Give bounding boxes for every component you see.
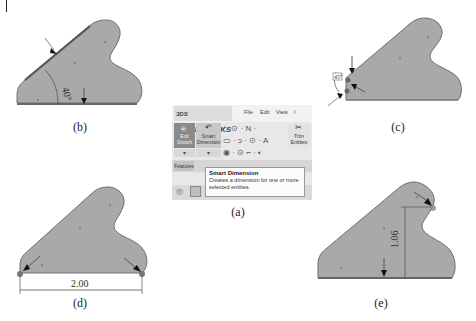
trim-icon: ✂ [295,124,302,132]
tooltip-title: Smart Dimension [209,170,301,177]
smart-dimension-tooltip: Smart Dimension Creates a dimension for … [205,167,305,197]
part-sketch-e: 1.06 [316,170,476,321]
exit-sketch-dropdown[interactable]: ▾ [174,149,195,157]
panel-d: 2.00 (d) [0,170,160,321]
property-manager-icon[interactable] [190,186,201,197]
smart-dimension-icon: ↶ [205,124,212,132]
linear-dimension-text[interactable]: 2.00 [71,278,89,289]
vertical-dimension-text[interactable]: 1.06 [389,231,400,249]
exit-sketch-icon: ⎆ [181,125,187,132]
menu-insert[interactable]: I [294,109,296,115]
menu-file[interactable]: File [244,109,253,115]
solidworks-logo: 3DS SOLIDWORKS [174,106,232,121]
panel-e: 1.06 (e) [316,170,476,321]
caption-d: (d) [65,296,95,311]
selected-arc[interactable] [430,205,436,211]
menu-view[interactable]: View [276,109,288,115]
menu-edit[interactable]: Edit [260,109,269,115]
caption-e: (e) [366,296,396,311]
caption-a: (a) [223,205,253,220]
feature-tree-icon[interactable]: ◎ [176,187,183,196]
tools-row-line-circle-spline[interactable]: ⁄ · ⊙ · N · [223,123,283,135]
smart-dimension-dropdown[interactable]: ▾ [196,149,221,157]
caption-c: (c) [383,120,413,135]
exit-sketch-button[interactable]: ⎆ Exit Sketch [174,123,195,148]
trim-entities-button[interactable]: ✂ Trim Entities [288,123,310,148]
tools-row-slot-circle-fillet-point[interactable]: ◉ · ⊙ ⌐ · ▪ [223,147,283,159]
sketch-tools-grid: ⁄ · ⊙ · N · ▭ · ↄ · ⊙ · A ◉ · ⊙ ⌐ · ▪ [223,123,283,159]
smart-dimension-button[interactable]: ↶ Smart Dimension [196,123,221,148]
tab-features[interactable]: Features [174,161,194,171]
tooltip-body: Creates a dimension for one or more sele… [209,177,301,191]
tools-row-rect-arc-polygon-text[interactable]: ▭ · ↄ · ⊙ · A [223,135,283,147]
angle-dimension-text: 45° [334,74,343,80]
